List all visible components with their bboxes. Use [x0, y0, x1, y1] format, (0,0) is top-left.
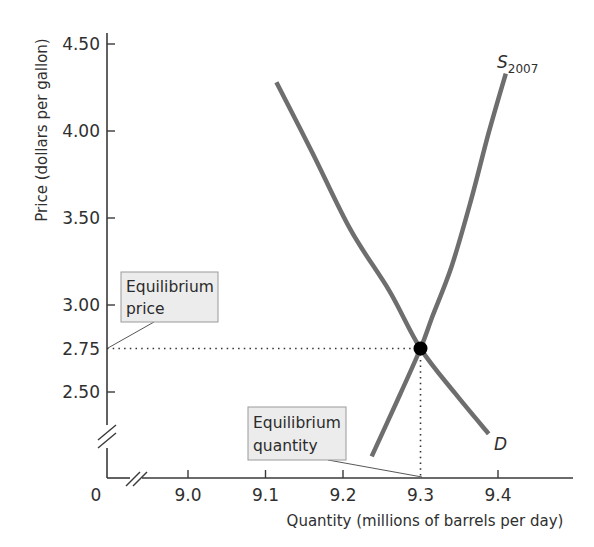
y-tick-label: 4.50	[62, 34, 100, 54]
x-tick-label: 9.0	[174, 485, 201, 505]
x-tick-label: 9.1	[252, 485, 279, 505]
y-axis	[98, 33, 116, 478]
callout-quantity-line1: Equilibrium	[253, 414, 341, 432]
supply-curve-label: S2007	[497, 52, 538, 76]
equilibrium-price-callout: Equilibrium price	[108, 272, 218, 348]
x-axis-break-icon	[126, 472, 147, 486]
x-tick-label: 9.2	[329, 485, 356, 505]
y-tick-label: 3.00	[62, 295, 100, 315]
y-tick-label: 4.00	[62, 121, 100, 141]
callout-price-line1: Equilibrium	[126, 278, 214, 296]
callout-price-line2: price	[126, 300, 165, 318]
x-ticks: 9.09.19.29.39.4	[174, 470, 511, 505]
y-tick-label: 2.50	[62, 382, 100, 402]
y-axis-break-icon	[98, 425, 116, 448]
x-tick-label: 9.3	[407, 485, 434, 505]
callout-quantity-line2: quantity	[253, 437, 318, 455]
y-axis-title: Price (dollars per gallon)	[33, 38, 51, 221]
y-tick-label: 2.75	[62, 339, 100, 359]
x-axis	[107, 472, 573, 486]
x-axis-title: Quantity (millions of barrels per day)	[287, 512, 564, 530]
x-tick-label: 9.4	[484, 485, 511, 505]
y-tick-label: 3.50	[62, 208, 100, 228]
equilibrium-quantity-callout: Equilibrium quantity	[248, 407, 422, 477]
x-origin-label: 0	[91, 485, 102, 505]
supply-curve-2007	[372, 74, 506, 457]
supply-demand-chart: 2.502.753.003.504.004.50 9.09.19.29.39.4…	[0, 0, 594, 547]
demand-curve-label: D	[494, 434, 507, 454]
equilibrium-point	[414, 342, 428, 356]
demand-curve	[276, 82, 488, 434]
